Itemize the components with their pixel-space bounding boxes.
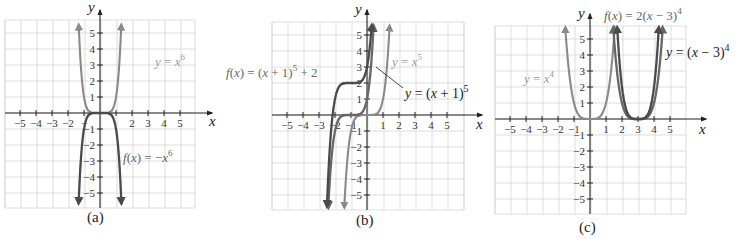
- y-tick-label: 4: [90, 43, 96, 55]
- y-tick-label: 3: [357, 61, 363, 73]
- y-tick-label: 5: [580, 33, 586, 45]
- y-tick-label: −4: [83, 171, 95, 183]
- x-tick-label: 5: [444, 119, 450, 131]
- y-tick-label: −5: [350, 189, 362, 201]
- label-y-x-plus-1-5: y = (x + 1)5: [403, 83, 469, 102]
- graph-b: xy−5−4−3−2−11234512345−1−2−3−4−5 y = x5 …: [226, 1, 483, 229]
- x-tick-label: 2: [396, 119, 402, 131]
- x-tick-label: −5: [504, 123, 516, 135]
- label-y-x6: y = x6: [153, 52, 185, 69]
- x-tick-label: 4: [651, 123, 657, 135]
- x-tick-label: 1: [603, 123, 609, 135]
- x-tick-label: −3: [46, 117, 58, 129]
- y-tick-label: 1: [357, 93, 363, 105]
- x-tick-label: 3: [412, 119, 418, 131]
- x-axis-label: x: [698, 121, 706, 137]
- panel-label-c: (c): [579, 219, 596, 236]
- leader-line: [376, 67, 403, 88]
- label-f-2-x-minus-3-4: f(x) = 2(x − 3)4: [604, 6, 682, 23]
- y-tick-label: 4: [357, 45, 363, 57]
- label-y-x-minus-3-4: y = (x − 3)4: [664, 42, 730, 61]
- x-tick-label: 5: [177, 117, 183, 129]
- y-tick-label: 4: [580, 49, 586, 61]
- y-tick-label: −5: [573, 193, 585, 205]
- y-tick-label: −3: [350, 157, 362, 169]
- y-tick-label: −1: [573, 129, 585, 141]
- x-axis-label: x: [208, 113, 216, 129]
- y-tick-label: 3: [90, 59, 96, 71]
- figure: xy−5−4−3−2−234512345−1−2−3−4−5 y = x6 f(…: [0, 0, 743, 239]
- y-tick-label: 1: [90, 91, 96, 103]
- label-f-neg-x6: f(x) = −x6: [123, 148, 173, 165]
- x-tick-label: −3: [313, 119, 325, 131]
- x-tick-label: −2: [62, 117, 74, 129]
- y-tick-label: −3: [83, 155, 95, 167]
- x-tick-label: 2: [619, 123, 625, 135]
- y-tick-label: 3: [580, 65, 586, 77]
- y-tick-label: 2: [580, 81, 586, 93]
- y-tick-label: −4: [573, 177, 585, 189]
- panel-label-a: (a): [87, 209, 104, 226]
- graph-a: xy−5−4−3−2−234512345−1−2−3−4−5 y = x6 f(…: [5, 0, 216, 226]
- x-tick-label: 3: [145, 117, 151, 129]
- graph-c: xy−5−4−3−2−11234512345−1−2−3−4−5 f(x) = …: [495, 5, 730, 236]
- x-tick-label: −4: [297, 119, 309, 131]
- x-tick-label: 2: [129, 117, 135, 129]
- y-axis-label: y: [576, 5, 585, 21]
- x-tick-label: −5: [14, 117, 26, 129]
- label-y-x4: y = x4: [522, 69, 554, 86]
- x-tick-label: −2: [552, 123, 564, 135]
- x-tick-label: −3: [536, 123, 548, 135]
- y-tick-label: 1: [580, 97, 586, 109]
- x-tick-label: −4: [30, 117, 42, 129]
- y-tick-label: −2: [350, 141, 362, 153]
- y-tick-label: −3: [573, 161, 585, 173]
- y-axis-label: y: [353, 1, 362, 17]
- x-tick-label: 4: [161, 117, 167, 129]
- x-tick-label: −5: [281, 119, 293, 131]
- x-tick-label: 3: [635, 123, 641, 135]
- y-tick-label: 2: [90, 75, 96, 87]
- label-f-x-plus-1-5-plus-2: f(x) = (x + 1)5 + 2: [226, 63, 318, 80]
- y-tick-label: 5: [357, 29, 363, 41]
- y-tick-label: −2: [573, 145, 585, 157]
- x-tick-label: 4: [428, 119, 434, 131]
- x-axis-label: x: [475, 116, 483, 132]
- label-y-x5: y = x5: [390, 52, 422, 69]
- panel-label-b: (b): [356, 212, 374, 229]
- x-tick-label: −4: [520, 123, 532, 135]
- y-tick-label: −4: [350, 173, 362, 185]
- x-tick-label: 5: [667, 123, 673, 135]
- y-tick-label: −5: [83, 187, 95, 199]
- y-tick-label: −2: [83, 139, 95, 151]
- x-tick-label: 1: [380, 119, 386, 131]
- y-tick-label: 5: [90, 27, 96, 39]
- y-axis-label: y: [86, 0, 95, 15]
